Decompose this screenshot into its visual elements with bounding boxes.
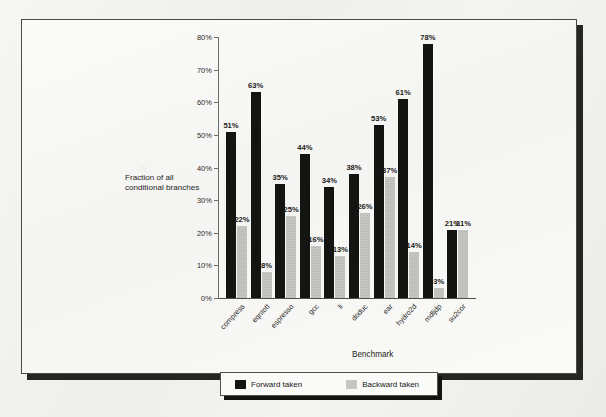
bar-forward-taken[interactable] [374, 125, 384, 298]
bar-backward-taken[interactable] [385, 177, 395, 298]
bar-value-label: 63% [244, 81, 268, 90]
bar-group: 34%13% [324, 20, 346, 298]
bar-group: 53%37% [374, 20, 396, 298]
chart-figure-frame: Fraction of all conditional branches 0%1… [21, 19, 577, 374]
y-axis-tick-mark [214, 298, 219, 299]
bar-backward-taken[interactable] [237, 226, 247, 298]
bar-group: 44%16% [300, 20, 322, 298]
chart-legend: Forward takenBackward taken [220, 372, 438, 396]
bar-backward-taken[interactable] [335, 256, 345, 298]
x-axis-label-eqntott: eqntott [249, 302, 271, 324]
y-axis-tick-label: 80% [174, 33, 212, 42]
x-axis-title: Benchmark [352, 350, 393, 359]
bar-backward-taken[interactable] [262, 272, 272, 298]
y-axis-tick-mark [214, 233, 219, 234]
bar-value-label: 53% [367, 114, 391, 123]
y-axis-tick-mark [214, 102, 219, 103]
bar-backward-taken[interactable] [434, 288, 444, 298]
bar-group: 78%3% [423, 20, 445, 298]
bar-value-label: 44% [293, 143, 317, 152]
y-axis-tick-mark [214, 70, 219, 71]
bar-backward-taken[interactable] [360, 213, 370, 298]
bar-backward-taken[interactable] [458, 230, 468, 299]
x-axis-label-doduc: doduc [349, 302, 369, 323]
y-axis-tick-mark [214, 200, 219, 201]
bar-backward-taken[interactable] [409, 252, 419, 298]
legend-item[interactable]: Backward taken [346, 380, 419, 389]
y-axis-tick-label: 40% [174, 164, 212, 173]
bar-value-label: 34% [317, 176, 341, 185]
x-axis-line [218, 298, 476, 299]
bar-value-label: 38% [342, 163, 366, 172]
x-axis-label-mdljdp: mdljdp [422, 302, 443, 324]
bar-value-label: 51% [219, 121, 243, 130]
x-axis-label-ear: ear [380, 302, 394, 316]
bar-group: 61%14% [398, 20, 420, 298]
legend-label: Forward taken [251, 380, 302, 389]
bar-backward-taken[interactable] [286, 216, 296, 298]
x-axis-label-gcc: gcc [306, 302, 320, 316]
y-axis-tick-mark [214, 135, 219, 136]
bar-forward-taken[interactable] [275, 184, 285, 298]
y-axis-title: Fraction of all conditional branches [125, 173, 211, 193]
x-axis-label-compress: compress [218, 302, 246, 331]
bar-group: 35%25% [275, 20, 297, 298]
y-axis-tick-mark [214, 168, 219, 169]
bar-forward-taken[interactable] [398, 99, 408, 298]
bar-forward-taken[interactable] [349, 174, 359, 298]
bar-value-label: 21% [451, 219, 475, 228]
light-square-swatch [346, 380, 357, 389]
y-axis-tick-label: 30% [174, 196, 212, 205]
bar-value-label: 78% [416, 33, 440, 42]
y-axis-tick-label: 20% [174, 229, 212, 238]
x-axis-label-hydro2d: hydro2d [394, 302, 419, 327]
bar-group: 38%26% [349, 20, 371, 298]
x-axis-label-li: li [336, 302, 345, 311]
bar-value-label: 35% [268, 173, 292, 182]
bar-group: 51%22% [226, 20, 248, 298]
bar-forward-taken[interactable] [300, 154, 310, 298]
x-axis-label-su2cor: su2cor [446, 302, 468, 324]
y-axis-tick-mark [214, 265, 219, 266]
bar-group: 63%8% [251, 20, 273, 298]
y-axis-tick-label: 50% [174, 131, 212, 140]
y-axis-tick-label: 10% [174, 261, 212, 270]
bar-forward-taken[interactable] [324, 187, 334, 298]
legend-item[interactable]: Forward taken [235, 380, 302, 389]
x-axis-label-espresso: espresso [269, 302, 296, 330]
dark-square-swatch [235, 380, 246, 389]
bar-backward-taken[interactable] [311, 246, 321, 298]
bar-forward-taken[interactable] [447, 230, 457, 299]
y-axis-tick-label: 60% [174, 98, 212, 107]
bar-group: 21%21% [447, 20, 469, 298]
y-axis-tick-mark [214, 37, 219, 38]
y-axis-tick-label: 0% [174, 294, 212, 303]
y-axis-tick-label: 70% [174, 66, 212, 75]
bar-forward-taken[interactable] [423, 44, 433, 298]
legend-label: Backward taken [362, 380, 419, 389]
bar-value-label: 61% [391, 88, 415, 97]
